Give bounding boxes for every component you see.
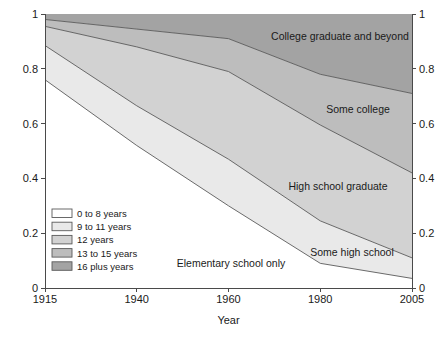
y-tick-label-right-5: 1 [419,8,425,20]
x-tick-label-2: 1960 [216,293,240,305]
y-axis-left-ticks: 00.20.40.60.81 [23,8,45,294]
x-tick-label-4: 2005 [400,293,424,305]
area-label-3: Some high school [310,246,393,258]
chart-canvas: 00.20.40.60.81 00.20.40.60.81 1915194019… [0,0,443,338]
legend-swatch-1 [52,222,72,231]
x-axis-ticks: 19151940196019802005 [33,288,424,305]
area-label-2: High school graduate [288,180,387,192]
x-tick-label-3: 1980 [308,293,332,305]
legend-label-2: 12 years [77,234,114,245]
legend-label-0: 0 to 8 years [77,208,127,219]
y-tick-label-right-3: 0.6 [419,118,434,130]
y-tick-label-left-3: 0.6 [23,118,38,130]
y-tick-label-right-2: 0.4 [419,172,434,184]
y-tick-label-right-4: 0.8 [419,63,434,75]
x-axis-title: Year [217,314,240,326]
x-tick-label-1: 1940 [125,293,149,305]
y-tick-label-left-4: 0.8 [23,63,38,75]
area-label-4: Elementary school only [177,257,286,269]
legend-swatch-3 [52,249,72,258]
area-label-0: College graduate and beyond [271,30,409,42]
legend-label-4: 16 plus years [77,261,134,272]
y-tick-label-left-2: 0.4 [23,172,38,184]
legend-swatch-2 [52,235,72,244]
legend-swatch-0 [52,209,72,218]
stacked-area-chart: 00.20.40.60.81 00.20.40.60.81 1915194019… [0,0,443,338]
y-axis-right-ticks: 00.20.40.60.81 [412,8,434,294]
legend-swatch-4 [52,262,72,271]
area-label-1: Some college [326,103,390,115]
y-tick-label-right-1: 0.2 [419,227,434,239]
y-tick-label-left-1: 0.2 [23,227,38,239]
y-tick-label-left-5: 1 [32,8,38,20]
legend-label-3: 13 to 15 years [77,248,137,259]
legend-label-1: 9 to 11 years [77,221,131,232]
x-tick-label-0: 1915 [33,293,57,305]
